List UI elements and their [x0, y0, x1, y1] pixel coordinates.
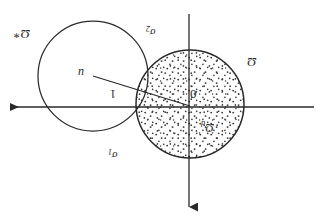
- label-omega-star: Ω*: [14, 28, 30, 41]
- figure-canvas: Ω* σ2 σ1 Ω Ωd 0 u 1: [0, 0, 316, 219]
- label-sigma-1-subscript: 1: [108, 147, 112, 156]
- label-omega-d-subscript: d: [201, 119, 205, 129]
- stippled-disc-fill: [130, 44, 254, 168]
- label-sigma-2-subscript: 2: [146, 24, 150, 33]
- label-sigma-2-base: σ: [150, 27, 155, 39]
- label-omega-d: Ωd: [201, 119, 214, 134]
- label-omega-d-base: Ω: [205, 121, 214, 135]
- label-center-point-u: u: [78, 67, 84, 79]
- label-sigma-1-base: σ: [112, 150, 117, 162]
- label-origin: 0: [190, 88, 197, 101]
- label-sigma-2: σ2: [146, 24, 155, 38]
- label-unit-length: 1: [110, 88, 116, 100]
- label-omega-star-text: Ω: [21, 27, 30, 42]
- label-omega-star-superscript: *: [14, 27, 21, 42]
- label-omega: Ω: [247, 56, 256, 69]
- label-sigma-1: σ1: [108, 147, 117, 161]
- figure-drawing: [0, 0, 316, 219]
